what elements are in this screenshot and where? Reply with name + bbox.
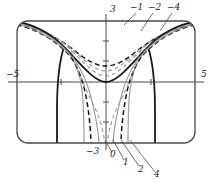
curve-0-left-branch <box>57 47 64 146</box>
leader-line-minus-4 <box>160 13 172 31</box>
x-axis-left-label: −5 <box>6 70 19 79</box>
curve-label-minus-4: −4 <box>167 3 180 12</box>
figure-container: −5 5 3 −3 −1 −2 −4 0 1 2 4 <box>0 0 214 179</box>
curve-label-2: 2 <box>138 165 144 174</box>
y-axis-top-label: 3 <box>110 5 116 14</box>
curve-label-4: 4 <box>154 170 160 179</box>
x-axis-right-label: 5 <box>201 70 207 79</box>
curve-1-left <box>17 23 84 146</box>
curve-label-minus-2: −2 <box>148 3 161 12</box>
curve-minus-1-left-branch <box>71 50 105 146</box>
leader-line-minus-2 <box>141 13 153 31</box>
curve-1-right <box>128 23 195 146</box>
curve-2-left <box>17 25 91 146</box>
curve-label-0: 0 <box>110 150 116 159</box>
curve-label-1: 1 <box>123 158 129 167</box>
leader-line-minus-1 <box>124 13 136 25</box>
y-axis-bottom-label: −3 <box>86 147 99 156</box>
curve-minus-1-right-branch <box>107 50 141 146</box>
curve-2-right <box>121 25 195 146</box>
curve-label-minus-1: −1 <box>130 3 143 12</box>
plot-svg <box>0 0 214 179</box>
curve-0-right-branch <box>148 47 155 146</box>
